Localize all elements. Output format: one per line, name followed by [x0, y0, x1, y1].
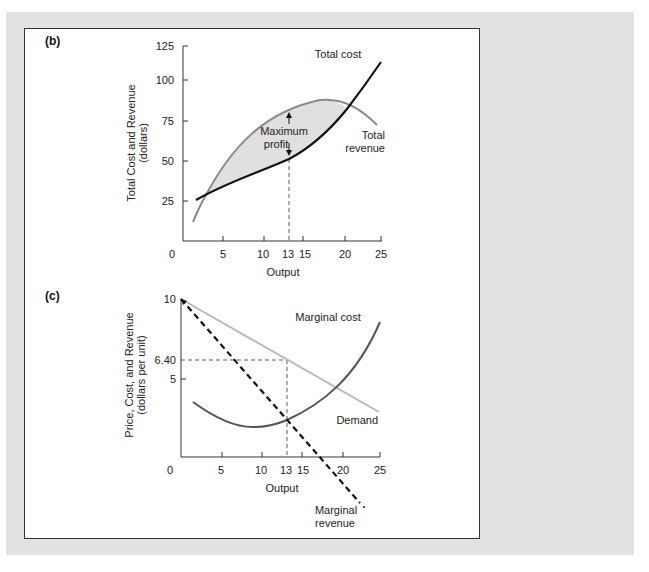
maximum-label: Maximum [260, 125, 308, 137]
xtick-15: 15 [299, 248, 311, 260]
ytick-100: 100 [156, 74, 174, 86]
chart-c: (c) 10 6.40 5 0 5 10 13 15 20 25 Output … [45, 289, 386, 529]
x-ticks-b [223, 236, 381, 241]
marginal-label: Marginal [315, 504, 357, 516]
y-ticks-b [183, 46, 188, 201]
chart-b: (b) 125 100 75 50 25 0 5 10 [45, 34, 387, 278]
xtick-0: 0 [169, 248, 175, 260]
demand-label: Demand [336, 414, 378, 426]
x-ticks-c [222, 452, 380, 457]
y-axis-title-c: Price, Cost, and Revenue (dollars per un… [123, 312, 147, 437]
ytick-125: 125 [156, 40, 174, 52]
panel-b-letter: (b) [45, 34, 60, 48]
marginal-revenue-line [181, 299, 360, 503]
profit-label: profit [264, 138, 288, 150]
x-axis-title-b: Output [266, 266, 299, 278]
xtick-13: 13 [282, 248, 294, 260]
xtick-20-c: 20 [337, 464, 349, 476]
svg-text:(dollars per unit): (dollars per unit) [135, 335, 147, 414]
ytick-5: 5 [170, 373, 176, 385]
xtick-13-c: 13 [280, 464, 292, 476]
ytick-10: 10 [164, 293, 176, 305]
marginal-revenue-dot [363, 506, 365, 508]
xtick-5: 5 [220, 248, 226, 260]
marginal-cost-label: Marginal cost [295, 311, 360, 323]
total-label: Total [362, 129, 385, 141]
revenue-label-b: revenue [345, 142, 385, 154]
xtick-10: 10 [257, 248, 269, 260]
x-axis-title-c: Output [265, 482, 298, 494]
xtick-25: 25 [375, 248, 387, 260]
xtick-10-c: 10 [255, 464, 267, 476]
xtick-0-c: 0 [167, 464, 173, 476]
panel-c-letter: (c) [45, 289, 60, 303]
ytick-25: 25 [162, 195, 174, 207]
figure-canvas: (b) 125 100 75 50 25 0 5 10 [0, 0, 649, 572]
xtick-25-c: 25 [374, 464, 386, 476]
xtick-5-c: 5 [218, 464, 224, 476]
ytick-75: 75 [162, 115, 174, 127]
xtick-15-c: 15 [297, 464, 309, 476]
svg-text:(dollars): (dollars) [137, 123, 149, 163]
ytick-50: 50 [162, 155, 174, 167]
ytick-6-40: 6.40 [155, 354, 176, 366]
svg-text:Total Cost and Revenue: Total Cost and Revenue [125, 84, 137, 201]
svg-text:Price, Cost, and Revenue: Price, Cost, and Revenue [123, 312, 135, 437]
total-cost-label: Total cost [315, 48, 361, 60]
marginal-cost-curve [193, 322, 380, 427]
revenue-label-c: revenue [315, 517, 355, 529]
xtick-20: 20 [339, 248, 351, 260]
y-axis-title-b: Total Cost and Revenue (dollars) [125, 84, 149, 201]
